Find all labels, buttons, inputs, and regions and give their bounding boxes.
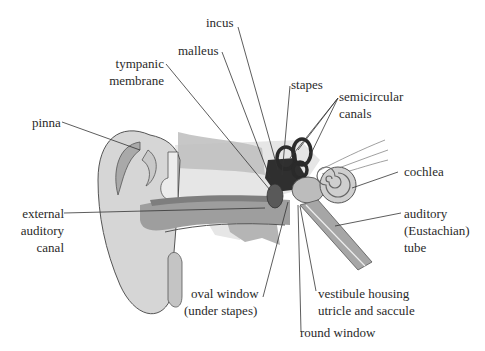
label-semicircular-line1: semicircular <box>339 88 403 105</box>
label-tympanic-line1: tympanic <box>104 55 164 72</box>
label-pinna: pinna <box>32 114 61 131</box>
label-auditory-tube-line1: auditory <box>404 205 447 222</box>
label-oval-window-line2: (under stapes) <box>184 302 257 319</box>
cochlea-shape <box>317 167 356 203</box>
tympanic-membrane <box>267 184 283 208</box>
label-tympanic-line2: membrane <box>94 72 164 89</box>
label-malleus: malleus <box>178 42 218 59</box>
eustachian-lumen <box>306 205 365 266</box>
label-auditory-tube-line3: tube <box>404 239 426 256</box>
label-oval-window-line1: oval window <box>191 285 259 302</box>
ear-diagram: incus malleus tympanic membrane stapes s… <box>0 0 485 351</box>
earlobe-fold <box>168 252 182 307</box>
label-vestibule-line2: utricle and saccule <box>318 302 415 319</box>
label-stapes: stapes <box>291 76 323 93</box>
label-vestibule-line1: vestibule housing <box>318 285 409 302</box>
label-semicircular-line2: canals <box>339 105 371 122</box>
vestibule <box>292 177 324 203</box>
label-incus: incus <box>206 14 233 31</box>
label-auditory-tube-line2: (Eustachian) <box>404 222 470 239</box>
label-external-line2: auditory <box>2 222 64 239</box>
label-external-line1: external <box>2 205 64 222</box>
label-external-line3: canal <box>2 239 64 256</box>
label-cochlea: cochlea <box>404 163 444 180</box>
label-round-window: round window <box>300 324 375 341</box>
